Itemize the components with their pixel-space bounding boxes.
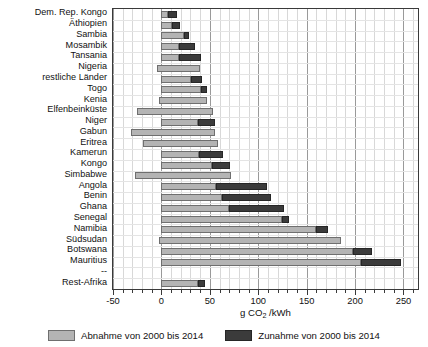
category-label: Senegal [74, 213, 107, 223]
category-label: Kongo [81, 159, 107, 169]
bar-segment-decrease [161, 43, 178, 50]
co2-intensity-bar-chart: Dem. Rep. KongoÄthiopienSambiaMosambikTa… [0, 0, 428, 347]
category-label: Elfenbeinküste [47, 105, 107, 115]
bar-segment-decrease [161, 183, 215, 190]
bar-segment-increase [172, 22, 180, 29]
category-label: Tansania [71, 51, 107, 61]
gridline-row [113, 106, 418, 107]
axis-tick-minor [326, 290, 327, 293]
gridline-row [113, 246, 418, 247]
category-axis-labels: Dem. Rep. KongoÄthiopienSambiaMosambikTa… [0, 8, 110, 290]
gridline-row [113, 138, 418, 139]
bar-segment-increase [199, 151, 223, 158]
bar-segment-decrease [161, 11, 168, 18]
legend-item-decrease: Abnahme von 2000 bis 2014 [48, 330, 203, 341]
axis-tick-minor [190, 290, 191, 293]
gridline-row [113, 117, 418, 118]
category-label: Ghana [80, 202, 107, 212]
category-label: Sambia [76, 30, 107, 40]
x-axis-title-post: /kWh [266, 307, 291, 318]
axis-tick-minor [200, 290, 201, 293]
legend-swatch-decrease-icon [48, 330, 75, 341]
axis-tick-minor [229, 290, 230, 293]
bar-segment-increase [198, 280, 205, 287]
gridline-row [113, 203, 418, 204]
bar-segment-decrease [161, 216, 282, 223]
bar-segment-decrease [161, 54, 178, 61]
bar-segment-decrease [161, 162, 211, 169]
bar-segment-increase [361, 259, 401, 266]
bar-segment-decrease [161, 22, 172, 29]
bar-segment-decrease [159, 97, 207, 104]
axis-tick-minor [316, 290, 317, 293]
gridline-row [113, 41, 418, 42]
category-label: Mauritius [70, 256, 107, 266]
bar-segment-decrease [161, 248, 353, 255]
x-axis-title-sub: 2 [262, 311, 266, 320]
bar-segment-decrease [135, 172, 231, 179]
axis-tick-major [210, 290, 211, 295]
bar-segment-decrease [161, 226, 316, 233]
axis-tick-minor [181, 290, 182, 293]
gridline-row [113, 74, 418, 75]
bar-segment-decrease [131, 129, 214, 136]
bar-segment-decrease [161, 205, 229, 212]
category-label: Kenia [84, 95, 107, 105]
bar-segment-increase [353, 248, 372, 255]
bar-segment-increase [316, 226, 328, 233]
axis-tick-minor [171, 290, 172, 293]
category-label: Äthiopien [69, 19, 107, 29]
bar-segment-decrease [161, 86, 201, 93]
category-label: Niger [85, 116, 107, 126]
axis-tick-minor [297, 290, 298, 293]
bar-segment-decrease [161, 194, 222, 201]
axis-tick-major [403, 290, 404, 295]
bar-segment-increase [198, 119, 214, 126]
category-label: Namibia [74, 224, 107, 234]
axis-tick-minor [365, 290, 366, 293]
category-label: Rest-Afrika [62, 278, 107, 288]
bar-segment-increase [201, 86, 207, 93]
bar-segment-increase [179, 43, 195, 50]
bar-segment-increase [282, 216, 289, 223]
axis-tick-minor [239, 290, 240, 293]
category-label: Mosambik [66, 41, 107, 51]
axis-tick-label: 250 [396, 296, 412, 306]
bar-segment-increase [179, 54, 201, 61]
gridline-row [113, 181, 418, 182]
category-label: Südsudan [66, 235, 107, 245]
bar-segment-increase [212, 162, 230, 169]
bar-segment-decrease [161, 151, 199, 158]
legend-swatch-increase-icon [225, 330, 252, 341]
x-axis-title-pre: g CO [240, 307, 262, 318]
axis-tick-minor [278, 290, 279, 293]
bar-segment-increase [168, 11, 177, 18]
axis-tick-minor [384, 290, 385, 293]
gridline-row [113, 224, 418, 225]
axis-tick-minor [374, 290, 375, 293]
x-axis-title: g CO2 /kWh [112, 307, 419, 318]
axis-tick-label: 0 [159, 296, 164, 306]
axis-tick-major [355, 290, 356, 295]
gridline-row [113, 257, 418, 258]
axis-tick-label: 200 [347, 296, 363, 306]
axis-tick-major [307, 290, 308, 295]
bar-segment-increase [184, 32, 189, 39]
bar-segment-decrease [157, 65, 201, 72]
gridline-row [113, 95, 418, 96]
bar-segment-decrease [143, 140, 218, 147]
category-label: Angola [79, 181, 107, 191]
gridline-row [113, 192, 418, 193]
axis-tick-minor [220, 290, 221, 293]
bar-segment-decrease [161, 259, 360, 266]
axis-tick-minor [142, 290, 143, 293]
legend: Abnahme von 2000 bis 2014 Zunahme von 20… [0, 325, 428, 345]
axis-tick-major [113, 290, 114, 295]
axis-tick-minor [394, 290, 395, 293]
gridline-row [113, 214, 418, 215]
category-label: Botswana [67, 245, 107, 255]
axis-tick-minor [345, 290, 346, 293]
category-label: Togo [87, 84, 107, 94]
category-label: Kamerun [70, 148, 107, 158]
axis-tick-minor [123, 290, 124, 293]
